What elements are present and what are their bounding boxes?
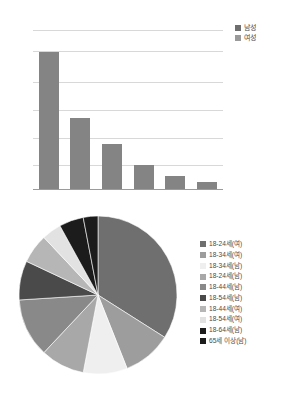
legend-swatch-icon — [200, 263, 206, 269]
pie-chart-legend: 18-24세(여) 18-34세(여) 18-34세(남) 18-24세(남) … — [200, 241, 285, 349]
legend-item: 18-24세(여) — [200, 241, 285, 248]
legend-item-label: 18-24세(여) — [209, 241, 242, 248]
pie-chart: 18-24세(여) 18-34세(여) 18-34세(남) 18-24세(남) … — [0, 200, 285, 407]
legend-item: 18-54세(여) — [200, 316, 285, 323]
bar — [165, 176, 185, 189]
bar — [134, 165, 154, 189]
bar-slot — [65, 28, 97, 189]
legend-item-label: 18-54세(남) — [209, 295, 242, 302]
legend-swatch-icon — [200, 317, 206, 323]
legend-swatch-icon — [200, 284, 206, 290]
legend-swatch-icon — [200, 338, 206, 344]
pie-plot-area — [18, 211, 178, 379]
legend-swatch-icon — [200, 306, 206, 312]
bar — [102, 144, 122, 189]
legend-item: 18-34세(여) — [200, 252, 285, 259]
legend-item: 18-34세(남) — [200, 263, 285, 270]
bar-plot-area — [33, 28, 223, 190]
legend-item: 18-44세(남) — [200, 284, 285, 291]
bar-slot — [33, 28, 65, 189]
legend-item: 18-54세(남) — [200, 295, 285, 302]
legend-item-label: 18-54세(여) — [209, 316, 242, 323]
legend-swatch-icon — [200, 328, 206, 334]
legend-item-label: 남성 — [244, 24, 256, 31]
legend-item-label: 18-44세(여) — [209, 306, 242, 313]
bar-chart-legend: 남성 여성 — [235, 24, 285, 44]
bar-slot — [191, 28, 223, 189]
bar — [70, 118, 90, 189]
legend-item-label: 18-44세(남) — [209, 284, 242, 291]
pie-svg — [18, 211, 178, 379]
pie-slices — [19, 216, 177, 374]
legend-item-label: 18-64세(남) — [209, 327, 242, 334]
bar — [39, 52, 59, 189]
legend-item-label: 18-34세(남) — [209, 263, 242, 270]
legend-item-male: 남성 — [235, 24, 285, 31]
legend-item-label: 여성 — [244, 34, 256, 41]
legend-swatch-icon — [200, 274, 206, 280]
bar-slot — [96, 28, 128, 189]
legend-item: 65세 이상(남) — [200, 338, 285, 345]
legend-item-label: 18-34세(여) — [209, 252, 242, 259]
legend-item-female: 여성 — [235, 34, 285, 41]
legend-swatch-icon — [235, 25, 241, 31]
bar-series — [33, 28, 223, 189]
legend-swatch-icon — [200, 241, 206, 247]
legend-item-label: 18-24세(남) — [209, 273, 242, 280]
legend-item: 18-24세(남) — [200, 273, 285, 280]
legend-item-label: 65세 이상(남) — [209, 338, 247, 345]
legend-swatch-icon — [235, 35, 241, 41]
legend-swatch-icon — [200, 252, 206, 258]
bar-chart: 남성 여성 — [0, 0, 285, 200]
legend-swatch-icon — [200, 295, 206, 301]
bar-slot — [128, 28, 160, 189]
bar-axis-baseline — [33, 189, 223, 191]
legend-item: 18-44세(여) — [200, 306, 285, 313]
legend-item: 18-64세(남) — [200, 327, 285, 334]
bar-slot — [160, 28, 192, 189]
